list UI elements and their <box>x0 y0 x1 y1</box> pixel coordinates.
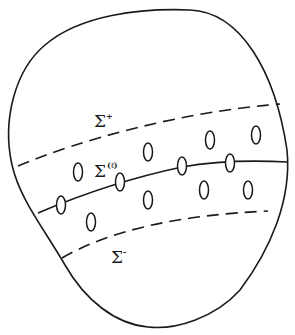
hole-ellipse <box>178 157 187 175</box>
hole-ellipse <box>252 126 261 144</box>
sigma-minus-label: Σ- <box>111 247 126 267</box>
hole-ellipse <box>144 191 153 209</box>
hole-ellipse <box>244 181 253 199</box>
sigma-plus-label: Σ+ <box>94 111 113 131</box>
hole-ellipse <box>57 196 66 214</box>
hole-ellipse <box>144 143 153 161</box>
hole-ellipse <box>116 173 125 191</box>
sigma-l-label: Σ(ℓ) <box>94 160 118 181</box>
hole-ellipse <box>200 181 209 199</box>
hole-ellipse <box>226 154 235 172</box>
hole-ellipse <box>74 163 83 181</box>
region-outline <box>9 10 288 328</box>
hole-ellipse <box>206 131 215 149</box>
hole-ellipse <box>87 213 96 231</box>
region-diagram: Σ+ Σ(ℓ) Σ- <box>0 0 295 335</box>
